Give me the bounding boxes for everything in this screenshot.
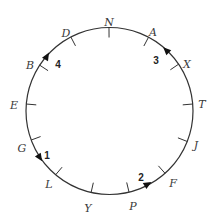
- label-a: A: [148, 26, 157, 39]
- tick-p: [127, 182, 129, 192]
- tick-y: [91, 183, 93, 193]
- arrow-number-1: 1: [44, 150, 50, 161]
- tick-a: [144, 37, 149, 46]
- label-j: J: [192, 139, 199, 152]
- label-g: G: [18, 142, 27, 155]
- tick-f: [158, 166, 165, 173]
- label-t: T: [198, 98, 207, 111]
- arrowhead-icon-2: [143, 182, 152, 189]
- tick-t: [183, 104, 193, 105]
- label-l: L: [44, 178, 52, 191]
- label-f: F: [168, 177, 177, 190]
- tick-j: [178, 138, 187, 142]
- tick-x: [170, 64, 178, 70]
- tick-d: [71, 37, 76, 46]
- arrow-number-3: 3: [153, 55, 159, 66]
- label-d: D: [61, 27, 71, 40]
- arrow-number-2: 2: [138, 172, 144, 183]
- label-x: X: [182, 58, 192, 71]
- tick-e: [26, 104, 36, 105]
- tick-l: [56, 167, 62, 175]
- label-b: B: [25, 59, 34, 72]
- circular-diagram: NAXTJFPYLGEBD 1234: [0, 0, 215, 217]
- point-labels: NAXTJFPYLGEBD: [9, 16, 207, 215]
- label-n: N: [103, 16, 114, 29]
- label-y: Y: [84, 202, 93, 215]
- tick-g: [31, 137, 40, 140]
- arrow-number-4: 4: [55, 59, 61, 70]
- direction-arrows: 1234: [35, 47, 171, 189]
- label-e: E: [9, 99, 18, 112]
- tick-b: [40, 65, 48, 70]
- label-p: P: [128, 200, 137, 213]
